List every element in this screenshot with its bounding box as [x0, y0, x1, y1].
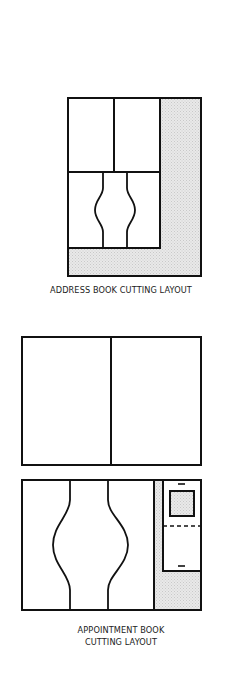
appointment-book-caption-line1: APPOINTMENT BOOK [0, 625, 242, 636]
appointment-spine-curve-left [53, 480, 70, 610]
address-book-caption: ADDRESS BOOK CUTTING LAYOUT [0, 285, 242, 296]
address-spine-curve-left [95, 172, 103, 248]
appointment-top-sheet [22, 337, 201, 465]
appointment-bottom-sheet [22, 480, 201, 610]
address-spine-curve-right [127, 172, 135, 248]
address-scrap-area [68, 98, 201, 276]
cutting-layouts-drawing [0, 0, 242, 690]
appointment-window-square [170, 491, 194, 516]
appointment-spine-curve-right [108, 480, 128, 610]
appointment-book-caption-line2: CUTTING LAYOUT [0, 637, 242, 648]
address-book-layout [68, 98, 201, 276]
